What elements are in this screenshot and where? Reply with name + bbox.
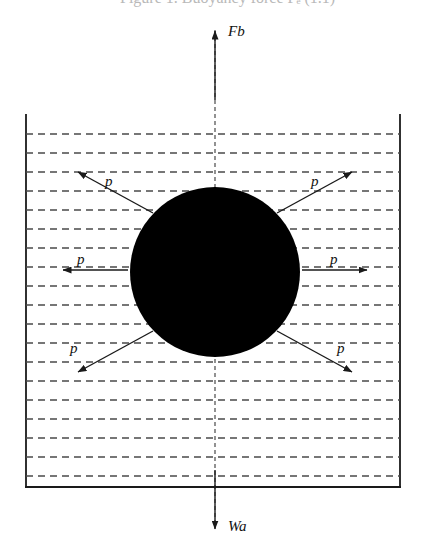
buoyancy-force-diagram: Figure 1. Buoyancy force Fₑ (1.1) FbWapp… [0,0,422,557]
label-pressure-lower-right: p [336,340,345,356]
vector-pressure-upper-left [78,172,153,213]
label-buoyancy: Fb [227,23,245,39]
label-weight: Wa [228,518,247,534]
submerged-sphere [130,187,300,357]
label-pressure-left: p [76,251,85,267]
label-pressure-lower-left: p [69,340,78,356]
label-pressure-right: p [329,251,338,267]
diagram-canvas: FbWapppppp [0,0,422,557]
label-pressure-upper-left: p [104,173,113,189]
vector-pressure-lower-left [78,331,153,372]
label-pressure-upper-right: p [310,173,319,189]
